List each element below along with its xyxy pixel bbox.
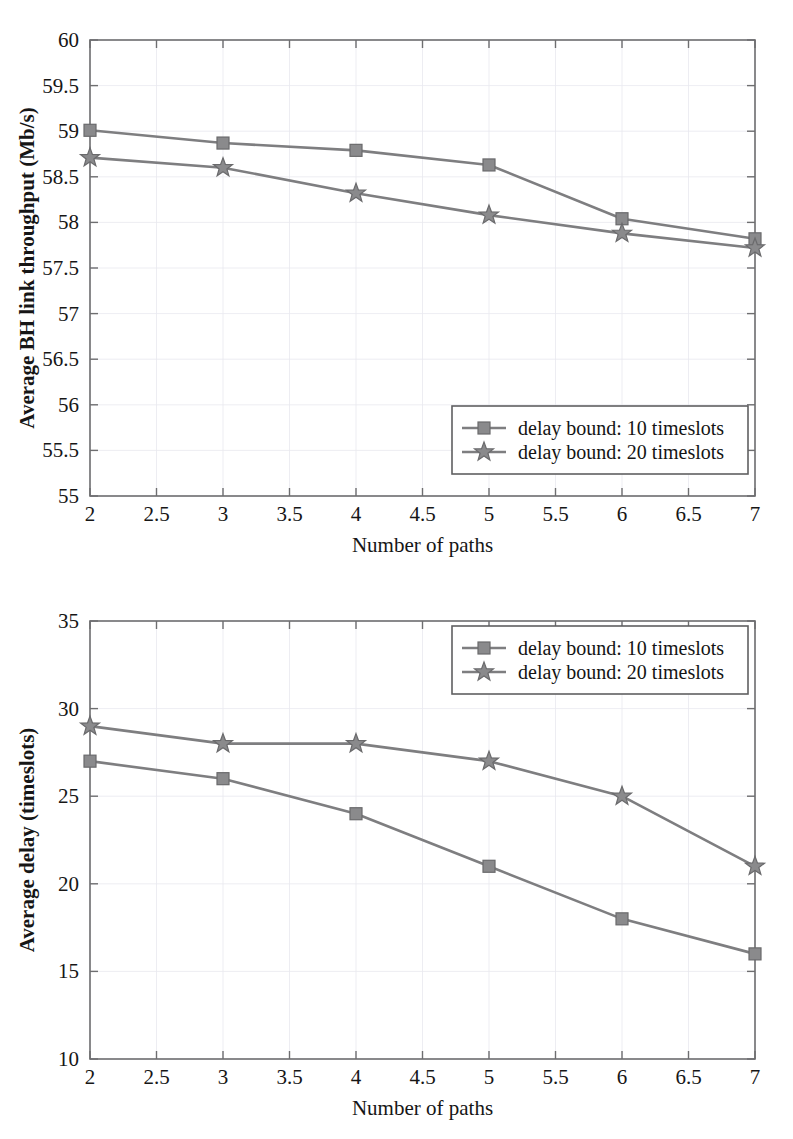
legend-square-icon [478,422,490,434]
chart-text: 57.5 [42,256,79,280]
y-axis-title: Average BH link throughput (Mb/s) [15,107,39,428]
legend-square-icon [478,642,490,654]
legend-label: delay bound: 20 timeslots [518,441,724,464]
chart-text: 55.5 [42,438,79,462]
chart-text: 59.5 [42,74,79,98]
square-marker [483,159,495,171]
chart-text: 2.5 [143,1065,169,1089]
chart-text: 10 [58,1047,79,1071]
chart-text: 5.5 [542,1065,568,1089]
chart-text: 2.5 [143,502,169,526]
square-marker [350,144,362,156]
square-marker [749,948,761,960]
legend-label: delay bound: 10 timeslots [518,637,724,660]
chart-text: 4 [351,1065,362,1089]
chart-text: 60 [58,28,79,52]
chart-text: 4.5 [409,1065,435,1089]
chart-text: 25 [58,784,79,808]
x-axis-title: Number of paths [352,533,493,557]
chart-text: 59 [58,119,79,143]
chart-text: 58.5 [42,165,79,189]
chart-text: 5.5 [542,502,568,526]
x-axis-title: Number of paths [352,1096,493,1120]
chart-text: 6.5 [675,502,701,526]
chart-text: 6 [617,1065,628,1089]
chart-text: 56 [58,393,79,417]
chart-text: 3 [218,502,229,526]
chart-text: 7 [750,502,761,526]
chart-text: 57 [58,302,79,326]
square-marker [217,773,229,785]
chart-text: 20 [58,872,79,896]
chart-text: 4.5 [409,502,435,526]
chart-text: 58 [58,210,79,234]
figure-page: 22.533.544.555.566.575555.55656.55757.55… [0,0,793,1139]
square-marker [217,137,229,149]
square-marker [350,808,362,820]
chart-text: 15 [58,959,79,983]
chart-text: 3.5 [276,1065,302,1089]
chart-text: 30 [58,697,79,721]
chart-text: 3 [218,1065,229,1089]
y-axis-title: Average delay (timeslots) [15,728,39,953]
legend-label: delay bound: 20 timeslots [518,661,724,684]
square-marker [616,913,628,925]
chart-text: 3.5 [276,502,302,526]
chart-text: 4 [351,502,362,526]
chart-legend[interactable]: delay bound: 10 timeslotsdelay bound: 20… [452,406,748,474]
chart-text: 2 [85,1065,96,1089]
throughput-chart-svg: 22.533.544.555.566.575555.55656.55757.55… [0,0,793,570]
chart-text: 6.5 [675,1065,701,1089]
legend-label: delay bound: 10 timeslots [518,417,724,440]
square-marker [84,124,96,136]
chart-legend[interactable]: delay bound: 10 timeslotsdelay bound: 20… [452,626,748,694]
average-delay-figure: 22.533.544.555.566.57101520253035Number … [0,570,793,1139]
chart-text: 2 [85,502,96,526]
chart-text: 56.5 [42,347,79,371]
chart-text: 6 [617,502,628,526]
square-marker [84,755,96,767]
square-marker [483,860,495,872]
chart-text: 7 [750,1065,761,1089]
throughput-plot-area: 22.533.544.555.566.575555.55656.55757.55… [0,0,793,570]
chart-text: 55 [58,484,79,508]
average-bh-link-throughput-figure: 22.533.544.555.566.575555.55656.55757.55… [0,0,793,570]
delay-plot-area: 22.533.544.555.566.57101520253035Number … [0,570,793,1139]
chart-text: 5 [484,502,495,526]
delay-chart-svg: 22.533.544.555.566.57101520253035Number … [0,570,793,1139]
chart-text: 5 [484,1065,495,1089]
chart-text: 35 [58,609,79,633]
